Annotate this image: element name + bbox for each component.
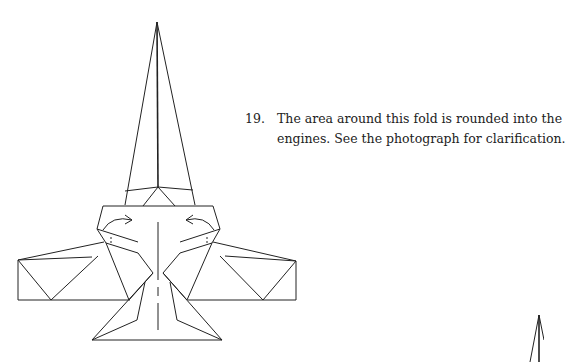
step-line-1: The area around this fold is rounded int… [277, 109, 569, 129]
step-line-2: engines. See the photograph for clarific… [277, 129, 569, 149]
left-wing [18, 242, 153, 300]
right-wing [163, 242, 296, 300]
next-diagram-nose [530, 315, 544, 362]
nose-cone [125, 22, 195, 206]
step-text: The area around this fold is rounded int… [277, 109, 569, 149]
step-number: 19. [245, 109, 275, 129]
tail-fins [92, 273, 222, 340]
